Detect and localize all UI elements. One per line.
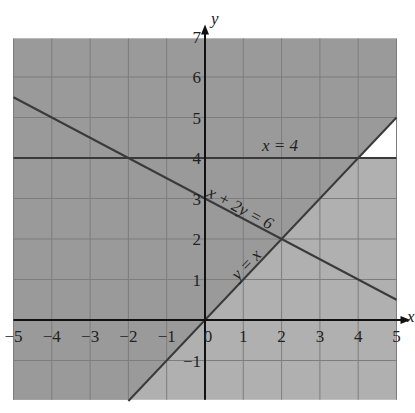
inequality-graph: −5−4−3−2−1012345−11234567 x = 4 x + 2y =… [0, 0, 415, 413]
y-tick-label: 5 [193, 109, 202, 128]
x-tick-label: −1 [158, 327, 176, 346]
x-tick-label: 5 [392, 327, 401, 346]
x-tick-label: −3 [81, 327, 99, 346]
y-tick-label: 4 [193, 149, 202, 168]
label-x-equals-4: x = 4 [261, 136, 299, 155]
x-tick-label: −2 [119, 327, 137, 346]
y-arrow-icon [201, 25, 209, 35]
y-axis-label: y [209, 9, 219, 28]
x-tick-label: 0 [204, 327, 213, 346]
x-tick-label: −5 [4, 327, 22, 346]
y-tick-label: 1 [193, 271, 202, 290]
y-tick-label: −1 [183, 352, 201, 371]
y-tick-label: 2 [193, 230, 202, 249]
y-tick-label: 7 [193, 28, 202, 47]
x-tick-label: 2 [277, 327, 286, 346]
x-tick-label: 1 [239, 327, 248, 346]
x-tick-label: 4 [354, 327, 363, 346]
x-tick-label: 3 [316, 327, 325, 346]
y-tick-label: 6 [193, 68, 202, 87]
x-tick-label: −4 [43, 327, 62, 346]
x-axis-label: x [406, 307, 415, 326]
y-tick-label: 3 [193, 190, 202, 209]
